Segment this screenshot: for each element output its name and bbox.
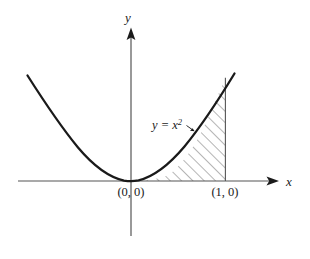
x-axis: x bbox=[18, 174, 292, 189]
figure-container: y x y = x2 (0, 0) (1, 0) bbox=[0, 0, 310, 259]
shaded-region bbox=[125, 70, 235, 188]
curve-equation-text: y = x2 bbox=[150, 117, 183, 133]
unit-point-label: (1, 0) bbox=[211, 185, 238, 199]
y-axis-label: y bbox=[123, 10, 131, 25]
region-hatching bbox=[125, 70, 235, 188]
y-axis: y bbox=[123, 10, 135, 236]
curve-equation-exponent: 2 bbox=[178, 117, 183, 127]
x-axis-label: x bbox=[285, 174, 292, 189]
origin-point-label: (0, 0) bbox=[117, 185, 144, 199]
curve-equation-base: y = x bbox=[150, 118, 178, 132]
curve-equation-label: y = x2 bbox=[150, 117, 195, 133]
parabola-diagram: y x y = x2 (0, 0) (1, 0) bbox=[0, 0, 310, 259]
